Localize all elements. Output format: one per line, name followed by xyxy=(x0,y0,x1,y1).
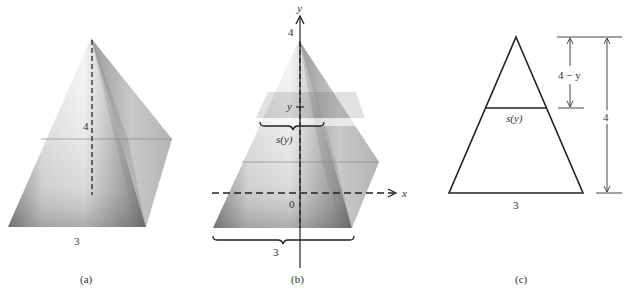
panel-a-caption: (a) xyxy=(80,273,93,286)
panel-c-caption: (c) xyxy=(515,273,528,286)
dim-upper-label: 4 − y xyxy=(558,69,581,81)
slab-highlight xyxy=(255,118,365,126)
panel-c: s(y) 3 4 − y 4 (c) xyxy=(449,37,622,286)
origin-label: 0 xyxy=(289,198,295,210)
slice-tick-label: y xyxy=(286,100,292,112)
pyramid-a-base-label: 3 xyxy=(74,235,80,247)
pyramid-b-base-label: 3 xyxy=(273,246,279,258)
dim-total-label: 4 xyxy=(603,111,609,123)
y-axis-label: y xyxy=(296,2,302,14)
panel-b: y 4 x 0 y s(y) 3 (b) xyxy=(212,2,407,286)
figure-canvas: 4 3 (a) y 4 x 0 y s(y) 3 (b) xyxy=(0,0,630,298)
base-brace xyxy=(213,236,354,244)
panel-a: 4 3 (a) xyxy=(8,38,172,286)
slice-width-label: s(y) xyxy=(276,133,293,146)
cross-section-base-label: 3 xyxy=(513,199,519,211)
pyramid-a-height-label: 4 xyxy=(83,120,89,132)
cross-section-slice-label: s(y) xyxy=(506,112,523,125)
slab-band xyxy=(256,92,365,118)
apex-tick-label: 4 xyxy=(288,26,294,38)
x-axis-label: x xyxy=(401,187,407,199)
dim-upper-label-text: 4 − y xyxy=(558,69,581,81)
panel-b-caption: (b) xyxy=(291,273,304,286)
